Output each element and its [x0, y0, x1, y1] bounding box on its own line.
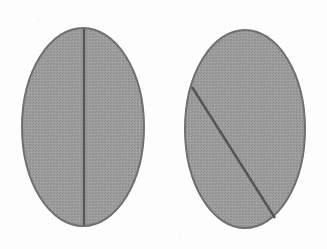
left-figure-group: [22, 28, 144, 226]
right-figure-group: [185, 30, 305, 228]
figure-container: [0, 0, 327, 249]
figure-canvas: [0, 0, 327, 249]
right-ellipse: [185, 30, 305, 228]
